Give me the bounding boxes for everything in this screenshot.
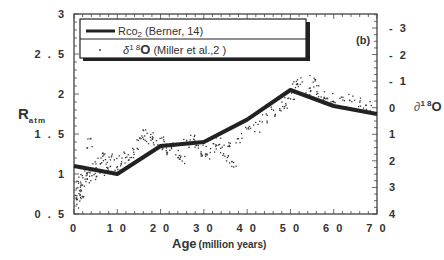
y-axis-ticks: 0 . 511 . 522 . 53 [35,8,79,220]
scatter-point [121,161,122,162]
scatter-point [333,102,334,103]
scatter-point [241,138,242,139]
scatter-point [214,151,215,152]
y2-tick-label: - 3 [389,22,408,34]
scatter-point [77,187,78,188]
scatter-point [314,80,315,81]
scatter-point [284,97,285,98]
scatter-point [82,175,83,176]
scatter-point [131,157,132,158]
scatter-point [81,190,82,191]
scatter-point [80,198,81,199]
y2-axis-title: ∂1 8O [414,99,442,114]
scatter-point [184,156,185,157]
scatter-point [233,166,234,167]
scatter-point [95,163,96,164]
x-tick-label: 5 0 [280,222,301,234]
scatter-point [186,140,187,141]
scatter-point [324,91,325,92]
y-axis-title: Ratm [18,105,46,125]
scatter-point [194,136,195,137]
scatter-point [121,157,122,158]
scatter-point [92,146,93,147]
scatter-point [352,96,353,97]
scatter-point [95,173,96,174]
scatter-point [137,148,138,149]
scatter-point [124,162,125,163]
scatter-point [297,79,298,80]
scatter-point [302,81,303,82]
scatter-point [147,133,148,134]
scatter-point [106,163,107,164]
scatter-point [285,105,286,106]
scatter-point [366,109,367,110]
scatter-point [146,141,147,142]
scatter-point [177,157,178,158]
scatter-point [227,157,228,158]
scatter-point [85,181,86,182]
scatter-point [360,106,361,107]
x-tick-label: 3 0 [193,222,214,234]
scatter-point [267,122,268,123]
scatter-point [166,154,167,155]
scatter-point [100,157,101,158]
scatter-point [222,155,223,156]
scatter-point [150,134,151,135]
scatter-point [298,86,299,87]
scatter-point [365,105,366,106]
scatter-point [103,154,104,155]
scatter-point [227,146,228,147]
scatter-point [116,158,117,159]
x-tick-label: 4 0 [236,222,257,234]
scatter-point [339,98,340,99]
scatter-point [237,138,238,139]
x-axis-title: Age(million years) [172,236,266,251]
scatter-point [169,150,170,151]
scatter-point [150,140,151,141]
scatter-point [152,137,153,138]
scatter-point [196,145,197,146]
scatter-point [205,156,206,157]
scatter-point [209,158,210,159]
scatter-point [239,142,240,143]
scatter-point [266,120,267,121]
scatter-point [143,130,144,131]
scatter-point [140,138,141,139]
scatter-point [78,207,79,208]
scatter-point [201,154,202,155]
scatter-point [102,153,103,154]
scatter-point [89,138,90,139]
scatter-point [153,142,154,143]
scatter-point [161,137,162,138]
scatter-point [166,150,167,151]
scatter-point [88,172,89,173]
scatter-point [166,147,167,148]
y-tick-label: 2 [58,88,66,100]
scatter-point [282,106,283,107]
scatter-point [300,77,301,78]
y-tick-label: 3 [58,8,66,20]
scatter-point [180,157,181,158]
scatter-point [141,135,142,136]
legend-label-rco2: Rco2 (Berner, 14) [118,25,203,39]
scatter-point [292,83,293,84]
scatter-point [205,153,206,154]
scatter-point [287,108,288,109]
scatter-point [321,96,322,97]
scatter-point [275,114,276,115]
scatter-point [110,159,111,160]
scatter-point [80,181,81,182]
scatter-point [119,155,120,156]
scatter-point [179,159,180,160]
scatter-point [332,93,333,94]
scatter-point [241,133,242,134]
scatter-point [95,161,96,162]
scatter-point [224,156,225,157]
scatter-point [126,156,127,157]
scatter-point [132,148,133,149]
scatter-point [144,140,145,141]
scatter-point [125,157,126,158]
scatter-point [93,174,94,175]
scatter-point [371,105,372,106]
scatter-point [164,141,165,142]
